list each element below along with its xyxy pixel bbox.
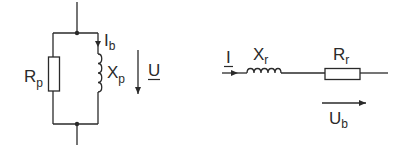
resistor-rp-symbol: [49, 57, 60, 91]
label-ib: Ib: [104, 31, 116, 53]
bottom-junction-dot: [75, 122, 79, 126]
inductor-xp-symbol: [98, 54, 102, 92]
label-rr: Rr: [333, 45, 349, 67]
inductor-xr-symbol: [247, 69, 281, 74]
label-rp: Rp: [24, 67, 43, 90]
top-junction-dot: [75, 31, 79, 35]
label-xr: Xr: [253, 45, 268, 67]
label-i: I: [226, 48, 231, 67]
current-i-arrow-icon: [231, 70, 238, 76]
label-ub: Ub: [329, 109, 348, 131]
label-u: U: [148, 61, 160, 80]
circuit-diagram: Rp Ib Xp U I Xr Rr Ub: [0, 0, 414, 146]
current-ib-arrow-icon: [95, 41, 101, 47]
series-circuit: [222, 69, 388, 104]
label-xp: Xp: [107, 63, 125, 86]
resistor-rr-symbol: [325, 69, 360, 80]
